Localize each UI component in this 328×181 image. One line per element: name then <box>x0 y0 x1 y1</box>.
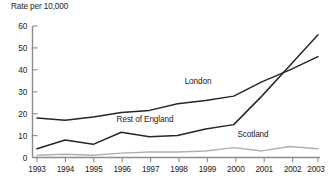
chart-container: Rate per 10,000 60 50 40 30 20 10 0 <box>0 0 328 181</box>
annotation-scotland: Scotland <box>237 130 269 139</box>
y-tick-label: 0 <box>23 154 28 163</box>
x-tick-label: 1993 <box>28 165 46 174</box>
x-tick-label: 1996 <box>113 165 131 174</box>
series-lines <box>37 35 318 156</box>
x-tick-label: 1994 <box>57 165 75 174</box>
x-tick-label: 2001 <box>255 165 273 174</box>
x-tick-label: 1999 <box>199 165 217 174</box>
series-annotations: London Rest of England Scotland <box>117 77 269 139</box>
series-line-scotland <box>37 147 318 156</box>
series-line-london <box>37 57 318 121</box>
x-axis: 1993 1994 1995 1996 1997 1998 1999 2000 … <box>28 158 325 175</box>
y-tick-label: 20 <box>18 110 27 119</box>
series-line-rest-of-england <box>37 35 318 149</box>
line-chart-plot: 60 50 40 30 20 10 0 <box>0 0 328 181</box>
y-tick-label: 10 <box>18 132 27 141</box>
y-axis-ticks <box>33 26 38 158</box>
annotation-rest-of-england: Rest of England <box>117 115 174 124</box>
x-tick-label: 2000 <box>227 165 245 174</box>
y-tick-label: 40 <box>18 66 27 75</box>
x-axis-ticks <box>37 158 318 163</box>
x-axis-tick-labels: 1993 1994 1995 1996 1997 1998 1999 2000 … <box>28 165 325 174</box>
annotation-london: London <box>185 77 212 86</box>
y-axis-tick-labels: 60 50 40 30 20 10 0 <box>18 22 27 163</box>
x-tick-label: 1997 <box>142 165 160 174</box>
y-tick-label: 60 <box>18 22 27 31</box>
x-tick-label: 2002 <box>284 165 302 174</box>
x-tick-label: 2003 <box>307 165 325 174</box>
x-tick-label: 1995 <box>85 165 103 174</box>
y-axis: 60 50 40 30 20 10 0 <box>18 22 37 163</box>
x-tick-label: 1998 <box>170 165 188 174</box>
y-tick-label: 50 <box>18 44 27 53</box>
y-tick-label: 30 <box>18 88 27 97</box>
